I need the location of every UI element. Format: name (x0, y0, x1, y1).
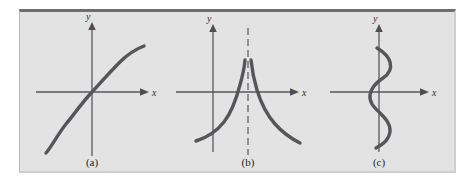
figure-frame (19, 9, 456, 173)
figure-container: x y (a) x y (b) (0, 0, 474, 186)
